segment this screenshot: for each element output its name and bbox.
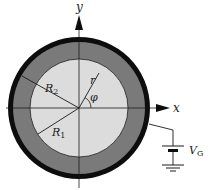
phi-label: φ [90, 91, 98, 104]
ground-icon [162, 165, 184, 171]
gate-wire [149, 124, 173, 146]
diagram-canvas: x y R2 R1 r φ VG [0, 0, 211, 190]
y-axis-arrow-icon [75, 15, 83, 30]
x-axis-label: x [173, 101, 180, 115]
vg-label: VG [189, 144, 203, 158]
r-label: r [90, 74, 96, 87]
y-axis-label: y [75, 0, 83, 14]
x-axis-arrow-icon [156, 104, 170, 112]
battery-negative-plate [168, 149, 178, 152]
